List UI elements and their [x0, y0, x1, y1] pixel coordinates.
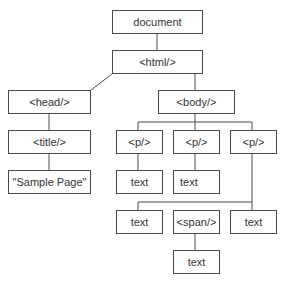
node-p2-text: text — [173, 170, 220, 194]
node-p3-span: <span/> — [173, 210, 220, 234]
node-document: document — [112, 10, 203, 34]
node-p3-text-a: text — [116, 210, 163, 234]
node-p3-text-b: text — [230, 210, 277, 234]
node-span-text: text — [173, 250, 220, 274]
node-title: <title/> — [8, 130, 91, 154]
node-p1: <p/> — [116, 130, 163, 154]
node-title-text: "Sample Page" — [8, 170, 91, 194]
node-html: <html/> — [112, 50, 203, 74]
node-p2: <p/> — [173, 130, 220, 154]
node-body: <body/> — [158, 90, 235, 114]
node-p1-text: text — [116, 170, 163, 194]
node-p3: <p/> — [230, 130, 277, 154]
node-head: <head/> — [8, 90, 91, 114]
